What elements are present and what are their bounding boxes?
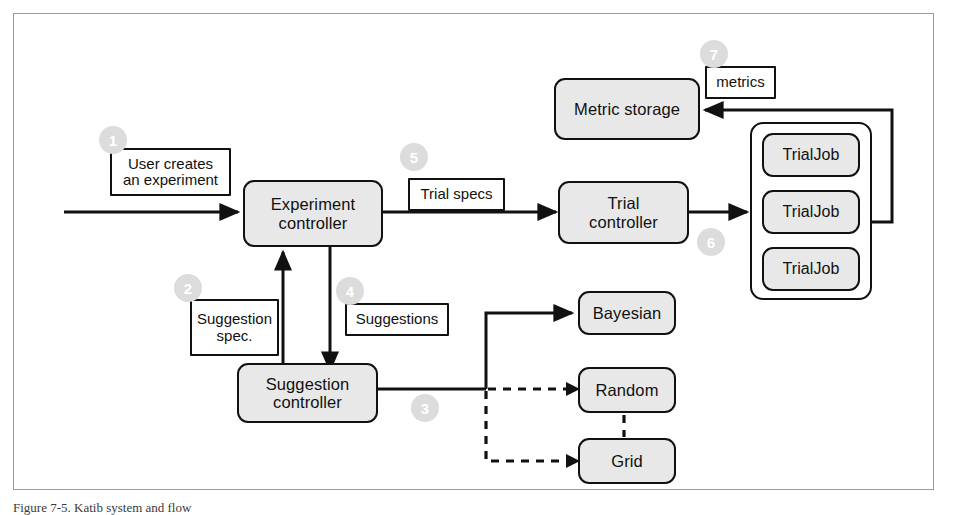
badge-6-number: 6 [707,234,715,251]
experiment-controller-node[interactable]: Experiment controller [243,180,383,247]
edge-suggestion-to-bayesian [486,313,572,389]
bayesian-node[interactable]: Bayesian [578,291,676,335]
trial-specs-text: Trial specs [421,186,493,203]
experiment-controller-label: Experiment controller [267,195,359,232]
trialjob-item-1[interactable]: TrialJob [762,133,860,177]
grid-node[interactable]: Grid [578,438,676,484]
trialjob-item-3[interactable]: TrialJob [762,247,860,291]
badge-3-number: 3 [421,400,429,417]
badge-4-number: 4 [346,283,354,300]
badge-2-number: 2 [184,280,192,297]
suggestion-spec-label: Suggestion spec. [190,299,279,356]
badge-3: 3 [411,394,439,422]
badge-1: 1 [99,126,127,154]
suggestion-controller-label: Suggestion controller [262,375,354,412]
user-creates-an-experiment-text: User creates an experiment [123,156,218,189]
metrics-text: metrics [716,74,764,91]
suggestions-text: Suggestions [356,311,439,328]
suggestion-spec-text: Suggestion spec. [197,311,272,344]
user-creates-an-experiment-label: User creates an experiment [110,148,231,196]
badge-2: 2 [174,274,202,302]
suggestion-controller-node[interactable]: Suggestion controller [237,363,378,423]
trial-specs-label: Trial specs [408,178,505,211]
metric-storage-label: Metric storage [570,100,684,118]
trialjob-1-label: TrialJob [778,146,843,164]
trial-controller-node[interactable]: Trial controller [558,181,689,244]
figure-root: User creates an experiment Suggestion sp… [0,0,957,515]
badge-7-number: 7 [710,46,718,63]
random-label: Random [592,381,663,399]
metrics-label: metrics [705,66,776,99]
badge-7: 7 [700,40,728,68]
trialjob-item-2[interactable]: TrialJob [762,190,860,234]
badge-5: 5 [400,143,428,171]
grid-label: Grid [607,452,647,470]
random-node[interactable]: Random [578,367,676,413]
badge-1-number: 1 [109,132,117,149]
badge-5-number: 5 [410,149,418,166]
badge-4: 4 [336,277,364,305]
bayesian-label: Bayesian [589,304,666,322]
trial-controller-label: Trial controller [585,194,662,231]
edge-suggestion-to-grid [486,391,566,461]
suggestions-label: Suggestions [345,303,449,336]
badge-6: 6 [697,228,725,256]
metric-storage-node[interactable]: Metric storage [554,78,700,140]
trialjob-2-label: TrialJob [778,203,843,221]
figure-caption: Figure 7-5. Katib system and flow [13,500,913,515]
trialjob-3-label: TrialJob [778,260,843,278]
